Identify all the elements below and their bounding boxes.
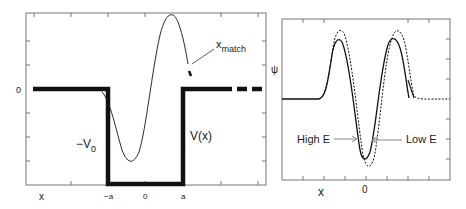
psi-label: ψ: [271, 64, 278, 75]
x-match-pointer: [192, 49, 214, 64]
left-plot: 0 x −a 0 a xmatch −V0 V(x): [16, 13, 266, 202]
left-y-ticks: [26, 41, 266, 161]
left-x-ticks: [34, 13, 258, 185]
high-e-label: High E: [297, 133, 330, 145]
figure: 0 x −a 0 a xmatch −V0 V(x): [0, 0, 466, 209]
x-match-label: xmatch: [216, 38, 246, 54]
low-e-wavefunction: [318, 30, 450, 166]
neg-v0-sub: 0: [91, 144, 96, 154]
x-axis-label-left: x: [39, 191, 44, 202]
tick-zero-right: 0: [362, 184, 368, 195]
low-e-label: Low E: [406, 133, 437, 145]
y-zero-label: 0: [16, 85, 21, 95]
trial-wavefunction-curve: [102, 15, 188, 162]
right-ticks: [303, 19, 450, 180]
right-plot: ψ x 0 High E Low E: [271, 19, 450, 199]
neg-v0-label: −V0: [76, 137, 96, 154]
left-plot-frame: [26, 13, 266, 185]
high-e-arrow: [334, 136, 357, 142]
v-of-x-label: V(x): [190, 129, 212, 143]
tick-a: a: [181, 192, 186, 201]
mismatch-segment: [189, 71, 191, 76]
x-axis-label-right: x: [318, 185, 324, 199]
tick-zero-left: 0: [143, 192, 148, 201]
neg-v0-main: −V: [76, 137, 91, 151]
x-match-sub: match: [222, 44, 247, 54]
tick-neg-a: −a: [104, 192, 114, 201]
